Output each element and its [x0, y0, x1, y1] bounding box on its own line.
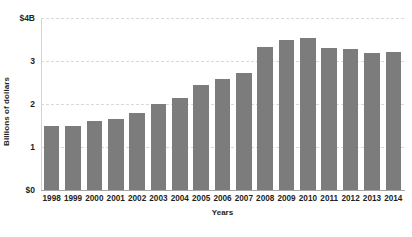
x-axis-tick-label: 2006 [212, 194, 233, 204]
bar [343, 49, 359, 190]
bar [236, 73, 252, 190]
bar [215, 79, 231, 190]
x-axis-tick-label: 2000 [84, 194, 105, 204]
x-axis-line [41, 190, 405, 191]
x-axis-tick-label: 2011 [319, 194, 340, 204]
x-axis-title: Years [41, 208, 404, 217]
bar [108, 119, 124, 190]
bar [172, 98, 188, 190]
x-axis-tick-label: 2012 [340, 194, 361, 204]
bar [321, 48, 337, 190]
x-axis-tick-label: 2001 [105, 194, 126, 204]
bar [364, 53, 380, 190]
x-axis-tick-label: 2007 [233, 194, 254, 204]
plot-area [41, 18, 404, 190]
x-axis-tick-label: 1998 [41, 194, 62, 204]
bar [257, 47, 273, 190]
y-axis-tick-label: $4B [0, 14, 35, 23]
x-axis-tick-label: 2014 [383, 194, 404, 204]
bar [65, 126, 81, 191]
bar [300, 38, 316, 190]
bar [129, 113, 145, 190]
y-axis-tick-label: $0 [0, 186, 35, 195]
bar [87, 121, 103, 190]
y-axis-tick-label: 1 [0, 143, 35, 152]
bar [279, 40, 295, 190]
x-axis-tick-label: 2005 [190, 194, 211, 204]
x-axis-tick-label: 2004 [169, 194, 190, 204]
gridline [41, 18, 404, 19]
bar [44, 126, 60, 191]
bar [193, 85, 209, 190]
bar [151, 104, 167, 190]
x-axis-tick-label: 2002 [126, 194, 147, 204]
bar-chart: Billions of dollars $0123$4B 19981999200… [0, 0, 412, 237]
x-axis-tick-label: 2009 [276, 194, 297, 204]
x-axis-tick-label: 2008 [255, 194, 276, 204]
y-axis-tick-label: 3 [0, 57, 35, 66]
bar [386, 52, 402, 190]
y-axis-tick-label: 2 [0, 100, 35, 109]
x-axis-tick-label: 2003 [148, 194, 169, 204]
x-axis-tick-label: 2013 [361, 194, 382, 204]
x-axis-tick-label: 2010 [297, 194, 318, 204]
x-axis-tick-label: 1999 [62, 194, 83, 204]
